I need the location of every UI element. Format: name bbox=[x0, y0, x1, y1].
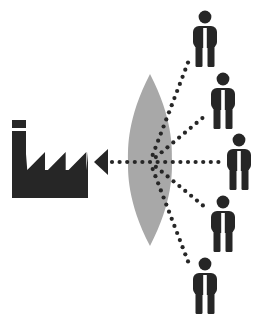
ray-dot bbox=[200, 116, 204, 120]
person-leg-gap bbox=[203, 275, 207, 315]
ray-dot bbox=[165, 145, 169, 149]
ray-dot bbox=[194, 121, 198, 125]
person-head bbox=[217, 73, 230, 86]
ray-dot bbox=[156, 160, 160, 164]
ray-dot bbox=[175, 231, 179, 235]
ray-dot bbox=[160, 150, 164, 154]
ray-dot bbox=[201, 160, 205, 164]
ray-dot bbox=[153, 174, 157, 178]
ray-dot bbox=[186, 160, 190, 164]
person-head bbox=[217, 196, 230, 209]
factory-chimney-stack bbox=[12, 131, 26, 154]
ray-dot bbox=[189, 126, 193, 130]
arrow-shaft-dot bbox=[125, 160, 129, 164]
person-leg-left bbox=[214, 227, 221, 252]
person-leg-right bbox=[208, 289, 215, 314]
ray-dot bbox=[159, 188, 163, 192]
person-leg-left bbox=[196, 42, 203, 67]
ray-dot bbox=[171, 140, 175, 144]
ray-dot bbox=[161, 195, 165, 199]
ray-dot bbox=[178, 82, 182, 86]
ray-dot bbox=[183, 189, 187, 193]
arrow-shaft-dot bbox=[140, 160, 144, 164]
ray-dot bbox=[175, 89, 179, 93]
ray-dot bbox=[180, 245, 184, 249]
ray-dot bbox=[172, 96, 176, 100]
ray-dot bbox=[156, 181, 160, 185]
ray-dot bbox=[189, 194, 193, 198]
ray-dot bbox=[180, 75, 184, 79]
ray-dot bbox=[164, 117, 168, 121]
arrow-shaft-dot bbox=[148, 160, 152, 164]
ray-dot bbox=[177, 135, 181, 139]
ray-to-person-3 bbox=[156, 160, 221, 164]
person-leg-gap bbox=[221, 90, 225, 130]
ray-dot bbox=[178, 160, 182, 164]
ray-dot bbox=[159, 132, 163, 136]
ray-dot bbox=[170, 103, 174, 107]
ray-dot bbox=[177, 184, 181, 188]
ray-dot bbox=[183, 131, 187, 135]
factory-chimney-cap bbox=[12, 120, 26, 128]
ray-dot bbox=[186, 259, 190, 263]
scene-svg bbox=[0, 0, 260, 322]
person-leg-right bbox=[208, 42, 215, 67]
arrow-shaft-dot bbox=[118, 160, 122, 164]
person-leg-left bbox=[214, 104, 221, 129]
person-leg-right bbox=[226, 227, 233, 252]
diagram-canvas bbox=[0, 0, 260, 322]
person-head bbox=[233, 134, 246, 147]
ray-dot bbox=[178, 238, 182, 242]
ray-dot bbox=[195, 198, 199, 202]
ray-dot bbox=[209, 160, 213, 164]
ray-dot bbox=[194, 160, 198, 164]
arrow-shaft-dot bbox=[133, 160, 137, 164]
ray-dot bbox=[166, 174, 170, 178]
ray-dot bbox=[153, 146, 157, 150]
ray-dot bbox=[161, 124, 165, 128]
arrow-shaft-dot bbox=[110, 160, 114, 164]
ray-dot bbox=[183, 68, 187, 72]
ray-dot bbox=[216, 160, 220, 164]
ray-dot bbox=[164, 202, 168, 206]
ray-dot bbox=[167, 210, 171, 214]
person-leg-gap bbox=[203, 28, 207, 68]
ray-dot bbox=[171, 160, 175, 164]
person-leg-gap bbox=[221, 213, 225, 253]
person-leg-gap bbox=[237, 151, 241, 191]
person-leg-left bbox=[230, 165, 237, 190]
ray-dot bbox=[160, 170, 164, 174]
person-leg-right bbox=[226, 104, 233, 129]
ray-dot bbox=[151, 167, 155, 171]
person-leg-right bbox=[242, 165, 249, 190]
ray-dot bbox=[201, 203, 205, 207]
ray-dot bbox=[183, 252, 187, 256]
ray-dot bbox=[154, 155, 158, 159]
ray-dot bbox=[186, 61, 190, 65]
ray-dot bbox=[156, 139, 160, 143]
person-leg-left bbox=[196, 289, 203, 314]
ray-dot bbox=[170, 217, 174, 221]
ray-dot bbox=[171, 179, 175, 183]
person-head bbox=[199, 11, 212, 24]
ray-dot bbox=[167, 110, 171, 114]
ray-dot bbox=[172, 224, 176, 228]
person-head bbox=[199, 258, 212, 271]
ray-dot bbox=[163, 160, 167, 164]
